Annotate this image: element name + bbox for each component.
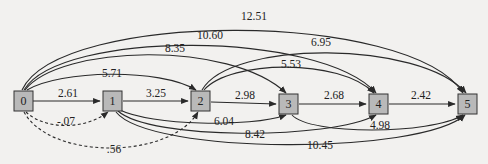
edge-2-4 bbox=[204, 67, 374, 93]
edge-1-3 bbox=[120, 110, 286, 123]
diagram-canvas: 2.61 3.25 2.98 2.68 2.42 5.71 8.35 10.60… bbox=[0, 0, 488, 164]
edge-label: -.07 bbox=[57, 115, 75, 127]
edge-label: 12.51 bbox=[241, 10, 267, 22]
edge-0-5 bbox=[22, 30, 463, 93]
edge-label: 8.35 bbox=[165, 42, 185, 54]
edge-label: 10.45 bbox=[307, 139, 333, 151]
edge-2-3 bbox=[211, 102, 276, 104]
edge-label: 2.68 bbox=[324, 89, 344, 101]
network-diagram: 2.61 3.25 2.98 2.68 2.42 5.71 8.35 10.60… bbox=[0, 0, 488, 164]
node-1: 1 bbox=[103, 91, 122, 111]
node-4: 4 bbox=[369, 94, 388, 114]
edge-label: 6.95 bbox=[311, 36, 331, 48]
edge-label: 5.53 bbox=[281, 58, 301, 70]
edge-label: 8.42 bbox=[245, 128, 265, 140]
edge-label: 5.71 bbox=[102, 67, 122, 79]
edge-label: 2.98 bbox=[235, 89, 255, 101]
node-label: 1 bbox=[110, 94, 116, 108]
node-2: 2 bbox=[191, 91, 210, 111]
edge-label: 3.25 bbox=[146, 87, 166, 99]
edge-label: 10.60 bbox=[197, 29, 223, 41]
node-5: 5 bbox=[458, 94, 477, 114]
edge-label: 6.04 bbox=[214, 115, 234, 127]
node-3: 3 bbox=[279, 94, 298, 114]
node-label: 4 bbox=[376, 97, 382, 111]
node-label: 2 bbox=[198, 94, 204, 108]
edge-label: 2.61 bbox=[58, 87, 78, 99]
edge-label: .56 bbox=[107, 143, 122, 155]
node-label: 5 bbox=[465, 97, 471, 111]
node-label: 0 bbox=[21, 94, 27, 108]
node-label: 3 bbox=[286, 97, 292, 111]
edge-label: 2.42 bbox=[411, 89, 431, 101]
node-0: 0 bbox=[14, 91, 33, 111]
edge-label: 4.98 bbox=[370, 119, 390, 131]
